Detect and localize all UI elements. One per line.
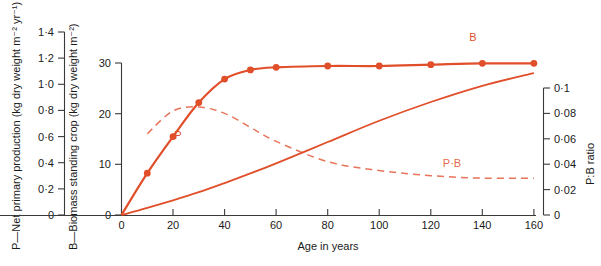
axis-x-tick-8: 160 <box>525 219 543 231</box>
axis-x-ticklabels: 0 20 40 60 80 100 120 140 160 <box>118 219 543 231</box>
axis-p-tick-5: 1·0 <box>38 78 54 90</box>
axis-p: 0 0·2 0·4 0·6 0·8 1·0 1·2 1·4 P—Net prim… <box>10 2 65 250</box>
series-annotations: P B P·B <box>174 31 476 169</box>
axis-b-tick-3: 30 <box>99 57 111 69</box>
axis-pb-tick-2: 0·04 <box>554 158 576 170</box>
series-p-marker <box>427 61 434 68</box>
axis-p-tick-2: 0·4 <box>38 157 54 169</box>
axis-p-tick-3: 0·6 <box>38 131 54 143</box>
axis-pb-tick-0: 0 <box>554 209 560 221</box>
axis-x: 0 20 40 60 80 100 120 140 160 Age in yea… <box>0 209 543 252</box>
axis-x-tick-6: 120 <box>422 219 440 231</box>
axis-b-ticklabels: 0 10 20 30 <box>99 57 111 221</box>
axis-pb-tick-5: 0·1 <box>554 82 570 94</box>
series-p-marker <box>376 63 383 70</box>
series-p-marker <box>144 170 151 177</box>
series-p-marker <box>479 60 486 67</box>
axis-pb-title: P:B ratio <box>584 143 596 185</box>
annotation-pb: P·B <box>443 157 461 169</box>
chart-canvas: 0 0·2 0·4 0·6 0·8 1·0 1·2 1·4 P—Net prim… <box>0 0 601 266</box>
series-p-marker <box>247 67 254 74</box>
axis-b-tick-1: 10 <box>99 158 111 170</box>
axis-pb: 0 0·02 0·04 0·06 0·08 0·1 P:B ratio <box>544 82 597 221</box>
axis-pb-ticklabels: 0 0·02 0·04 0·06 0·08 0·1 <box>554 82 576 221</box>
series-p-line <box>122 63 534 215</box>
axis-x-tick-7: 140 <box>473 219 491 231</box>
series-p-marker <box>324 63 331 70</box>
axis-p-ticks <box>58 32 65 215</box>
axis-x-tick-1: 20 <box>167 219 179 231</box>
series-p-marker <box>195 99 202 106</box>
axis-b-ticks <box>115 63 122 215</box>
annotation-b: B <box>469 31 476 43</box>
axis-p-tick-6: 1·2 <box>38 52 54 64</box>
axis-x-tick-5: 100 <box>370 219 388 231</box>
annotation-p: P <box>174 129 181 141</box>
axis-x-ticks <box>122 209 534 216</box>
series-pb-line <box>147 107 534 179</box>
axis-pb-tick-3: 0·06 <box>554 133 576 145</box>
axis-b-tick-2: 20 <box>99 108 111 120</box>
series-p-marker <box>221 76 228 83</box>
series-b-line <box>122 73 534 215</box>
axis-p-tick-4: 0·8 <box>38 104 54 116</box>
series-p-marker <box>273 64 280 71</box>
axis-p-tick-7: 1·4 <box>38 26 54 38</box>
axis-x-tick-4: 80 <box>322 219 334 231</box>
axis-x-tick-3: 60 <box>270 219 282 231</box>
series-group <box>122 60 538 215</box>
axis-x-title: Age in years <box>297 240 359 252</box>
axis-p-ticklabels: 0 0·2 0·4 0·6 0·8 1·0 1·2 1·4 <box>38 26 54 221</box>
axis-pb-tick-1: 0·02 <box>554 184 576 196</box>
axis-x-tick-2: 40 <box>218 219 230 231</box>
axis-x-tick-0: 0 <box>118 219 124 231</box>
series-p-markers <box>144 60 537 177</box>
figure-container: 0 0·2 0·4 0·6 0·8 1·0 1·2 1·4 P—Net prim… <box>0 0 601 266</box>
series-p-marker <box>531 60 538 67</box>
axis-pb-tick-4: 0·08 <box>554 107 576 119</box>
axis-p-tick-1: 0·2 <box>38 183 54 195</box>
axis-p-title: P—Net primary production (kg dry weight … <box>10 2 22 250</box>
axis-pb-ticks <box>544 88 551 215</box>
